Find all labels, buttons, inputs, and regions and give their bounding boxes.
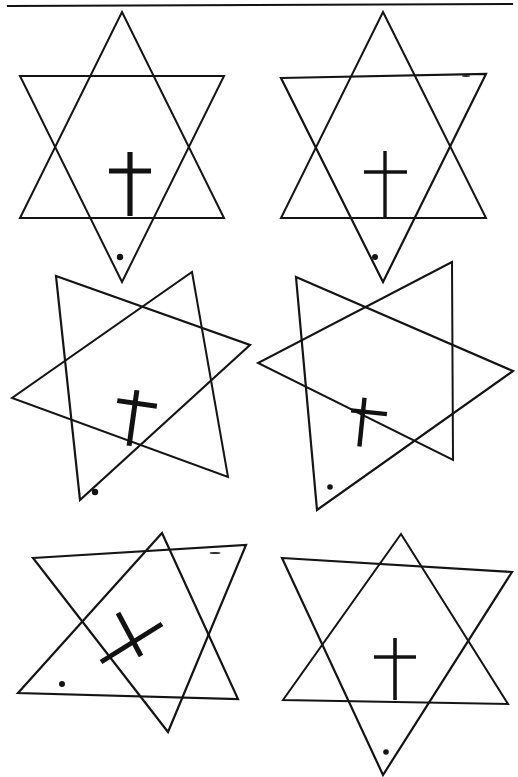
figure-sheet-canvas <box>0 0 518 777</box>
figure-1-down-triangle <box>20 76 224 282</box>
scan-specks <box>210 75 471 554</box>
figure-3-cross-vertical <box>129 390 137 445</box>
figure-4-cross-vertical <box>359 398 364 447</box>
figure-6-down-triangle <box>282 558 512 775</box>
figure-6-marker-dot <box>383 749 389 755</box>
figure-6-bottom-right <box>282 534 512 775</box>
scan-speck <box>462 75 470 77</box>
figure-3-down-triangle <box>56 276 250 500</box>
top-horizontal-rule <box>8 4 512 6</box>
figure-1-up-triangle <box>20 12 224 218</box>
figure-4-cross-horizontal <box>351 410 387 414</box>
figure-5-bottom-left <box>18 533 246 732</box>
figure-5-marker-dot <box>59 681 65 687</box>
header-rule-group <box>8 4 512 6</box>
figure-1-cross <box>109 152 151 216</box>
figure-3-middle-left <box>12 272 250 500</box>
figure-2-top-right <box>281 12 486 282</box>
figure-3-cross-horizontal <box>117 401 157 407</box>
figure-3-cross <box>111 388 158 449</box>
figure-6-cross <box>374 638 416 700</box>
figure-4-down-triangle <box>296 277 513 510</box>
figure-4-marker-dot <box>327 484 333 490</box>
figure-1-top-left <box>20 12 224 282</box>
figure-4-up-triangle <box>258 262 453 460</box>
figure-sheet-page <box>0 0 518 777</box>
figure-2-marker-dot <box>372 254 378 260</box>
figure-4-cross <box>347 396 388 448</box>
figure-4-middle-right <box>258 262 513 510</box>
figure-3-marker-dot <box>92 489 98 495</box>
scan-speck <box>210 552 221 554</box>
figure-2-cross <box>364 151 407 217</box>
figure-1-marker-dot <box>117 254 123 260</box>
figure-5-cross <box>101 613 162 662</box>
figure-3-up-triangle <box>12 272 228 477</box>
